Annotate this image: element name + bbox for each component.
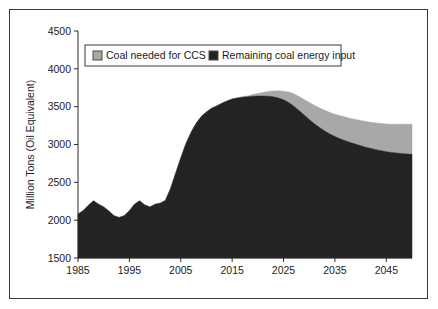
- area-chart: 4500400035003000250020001500198519952005…: [0, 0, 438, 309]
- y-axis-tick-label: 3500: [48, 100, 72, 112]
- x-axis-tick-label: 2025: [272, 264, 296, 276]
- x-axis-tick-label: 2015: [220, 264, 244, 276]
- y-axis-title: Million Tons (Oil Equivalent): [24, 80, 36, 209]
- x-axis-tick-label: 2045: [375, 264, 399, 276]
- x-axis-tick-label: 1985: [66, 264, 90, 276]
- legend-swatch: [209, 51, 218, 60]
- y-axis-tick-label: 4000: [48, 63, 72, 75]
- legend-label: Coal needed for CCS: [106, 49, 206, 61]
- y-axis-tick-label: 4500: [48, 25, 72, 37]
- y-axis-tick-label: 2000: [48, 214, 72, 226]
- legend-label: Remaining coal energy input: [222, 49, 355, 61]
- x-axis-tick-label: 2035: [323, 264, 347, 276]
- legend-swatch: [93, 51, 102, 60]
- x-axis-tick-label: 1995: [118, 264, 142, 276]
- y-axis-tick-label: 2500: [48, 176, 72, 188]
- area-remaining-coal-energy-input: [78, 96, 412, 258]
- x-axis-tick-label: 2005: [169, 264, 193, 276]
- figure: 4500400035003000250020001500198519952005…: [0, 0, 438, 309]
- y-axis-tick-label: 1500: [48, 252, 72, 264]
- y-axis-tick-label: 3000: [48, 138, 72, 150]
